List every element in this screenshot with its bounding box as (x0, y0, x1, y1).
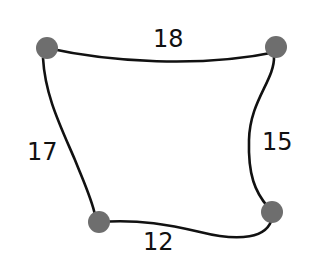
graph-diagram: 18 15 12 17 (0, 0, 309, 266)
edge-label-top: 18 (153, 27, 184, 51)
node-bottom-left (88, 211, 110, 233)
edge-left (43, 58, 95, 215)
node-top-left (36, 37, 58, 59)
edge-label-left: 17 (27, 140, 58, 164)
edge-label-bottom: 12 (143, 230, 174, 254)
node-bottom-right (261, 201, 283, 223)
edge-label-right: 15 (262, 130, 293, 154)
node-top-right (265, 36, 287, 58)
edge-bottom (99, 218, 272, 237)
